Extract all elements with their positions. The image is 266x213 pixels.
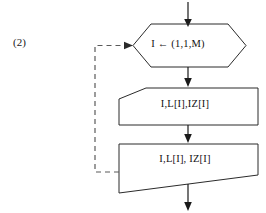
output-text: I,L[I], IZ[I] <box>140 153 230 164</box>
connector-loop-to-input <box>184 67 192 87</box>
entry-arrow <box>184 2 192 27</box>
connector-input-to-output <box>184 125 192 143</box>
exit-arrow <box>184 184 192 211</box>
feedback-dashed-connector <box>95 42 133 172</box>
flowchart-figure: (2) <box>0 0 266 213</box>
input-text: I,L[I],IZ[I] <box>140 98 230 109</box>
loop-control-text: I ← (1,1,M) <box>143 38 213 49</box>
